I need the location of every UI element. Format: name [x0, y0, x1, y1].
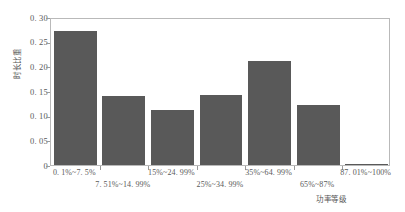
y-axis-tick-label: 0. 25	[4, 38, 48, 47]
bar	[248, 61, 291, 165]
y-axis-tick-label: 0. 15	[4, 88, 48, 97]
plot-area	[50, 18, 390, 166]
x-axis-tick-mark	[100, 166, 101, 170]
x-axis-tick-label: 7. 51%~14. 99%	[95, 180, 150, 189]
x-axis-tick-mark	[197, 166, 198, 170]
x-axis-tick-label: 25%~34. 99%	[197, 180, 244, 189]
x-axis-title: 功率等级	[316, 193, 346, 204]
bar	[200, 95, 243, 165]
bar	[151, 110, 194, 165]
x-axis-tick-label: 15%~24. 99%	[148, 168, 195, 177]
y-axis-tick-label: 0. 05	[4, 137, 48, 146]
y-axis-tick-label: 0. 30	[4, 14, 48, 23]
x-axis-tick-label: 0. 1%~7. 5%	[53, 168, 96, 177]
bar-chart-figure: 时长比重 00. 050. 100. 150. 200. 250. 30 0. …	[0, 0, 405, 212]
x-axis-tick-label: 35%~64. 99%	[245, 168, 292, 177]
y-axis-tick-label: 0. 10	[4, 112, 48, 121]
y-axis-tick-mark	[46, 166, 50, 167]
y-axis-tick-label: 0	[4, 162, 48, 171]
y-axis-tick-label: 0. 20	[4, 63, 48, 72]
bar	[345, 164, 388, 165]
bar	[102, 96, 145, 165]
bar	[54, 31, 97, 165]
x-axis-tick-mark	[294, 166, 295, 170]
x-axis-tick-label: 87. 01%~100%	[340, 168, 391, 177]
x-axis-tick-label: 65%~87%	[300, 180, 334, 189]
bar	[297, 105, 340, 165]
